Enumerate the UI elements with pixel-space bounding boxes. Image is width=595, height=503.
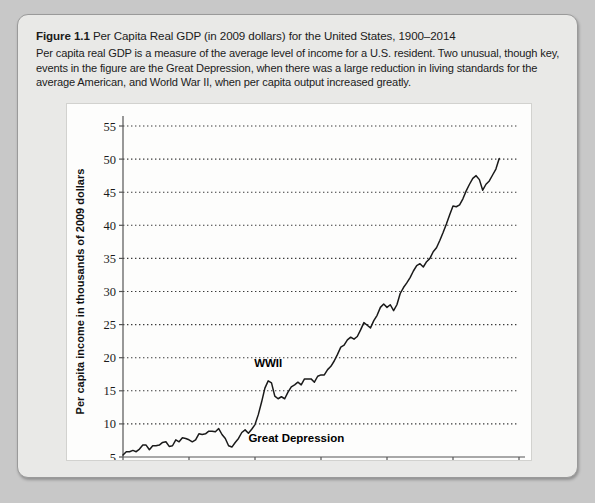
y-tick-label-30: 30 bbox=[104, 285, 117, 299]
annotation-wwii: WWII bbox=[254, 357, 282, 369]
y-tick-label-25: 25 bbox=[104, 318, 117, 332]
y-tick-label-10: 10 bbox=[104, 417, 117, 431]
data-line-per-capita-real-gdp bbox=[123, 158, 499, 455]
figure-description: Per capita real GDP is a measure of the … bbox=[36, 46, 560, 90]
y-tick-label-50: 50 bbox=[104, 153, 117, 167]
figure-title: Figure 1.1 Per Capita Real GDP (in 2009 … bbox=[36, 28, 560, 43]
plot-area-card: 5101520253035404550551900192019401960198… bbox=[66, 103, 532, 461]
gdp-line-chart: 5101520253035404550551900192019401960198… bbox=[67, 104, 531, 460]
y-tick-label-5: 5 bbox=[110, 451, 116, 461]
figure-title-text: Per Capita Real GDP (in 2009 dollars) fo… bbox=[93, 29, 456, 42]
figure-caption-block: Figure 1.1 Per Capita Real GDP (in 2009 … bbox=[36, 28, 560, 90]
y-tick-label-55: 55 bbox=[104, 120, 117, 134]
y-tick-label-20: 20 bbox=[104, 351, 117, 365]
y-tick-label-15: 15 bbox=[104, 384, 117, 398]
figure-number: Figure 1.1 bbox=[36, 29, 90, 42]
y-tick-label-35: 35 bbox=[104, 252, 117, 266]
y-tick-label-40: 40 bbox=[104, 219, 117, 233]
figure-panel: Figure 1.1 Per Capita Real GDP (in 2009 … bbox=[17, 14, 578, 478]
annotation-great-depression: Great Depression bbox=[248, 432, 344, 444]
y-tick-label-45: 45 bbox=[104, 186, 117, 200]
y-axis-title: Per capita income in thousands of 2009 d… bbox=[74, 169, 86, 415]
